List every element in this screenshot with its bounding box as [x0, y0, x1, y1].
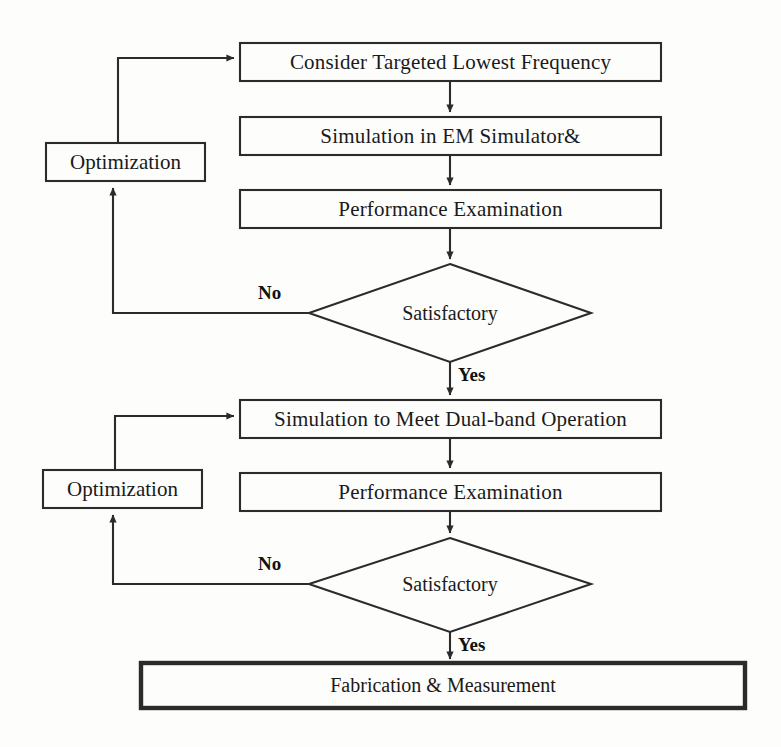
edge-decision2-no-to-optimization2: [113, 515, 309, 584]
node-optimization-1[interactable]: [46, 143, 205, 181]
node-fabrication[interactable]: [141, 663, 745, 708]
node-satisfactory-1[interactable]: [309, 264, 591, 362]
flowchart-canvas: Consider Targeted Lowest Frequency Simul…: [0, 0, 781, 747]
node-performance-exam-1[interactable]: [240, 190, 661, 228]
node-simulate-em[interactable]: [240, 117, 661, 155]
edge-optimization2-to-dualband: [115, 416, 234, 470]
flowchart-graphics: [0, 0, 781, 747]
edge-optimization1-to-consider: [118, 58, 234, 143]
node-optimization-2[interactable]: [43, 470, 202, 508]
node-consider-lowest-freq[interactable]: [240, 43, 661, 81]
node-performance-exam-2[interactable]: [240, 473, 661, 511]
node-simulate-dualband[interactable]: [240, 400, 661, 438]
node-satisfactory-2[interactable]: [309, 538, 591, 632]
